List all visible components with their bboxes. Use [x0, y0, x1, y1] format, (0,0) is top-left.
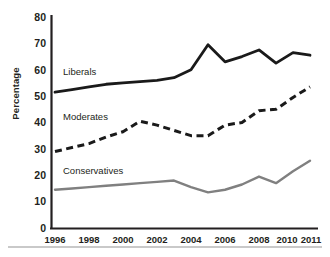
series-label-moderates: Moderates	[63, 112, 108, 122]
series-label-conservatives: Conservatives	[63, 166, 123, 176]
series-label-liberals: Liberals	[63, 67, 96, 77]
line-chart: Percentage 80 70 60 50 40 30 20 10 0 199…	[0, 0, 330, 257]
footer-divider	[8, 246, 322, 248]
plot-area	[0, 0, 330, 257]
